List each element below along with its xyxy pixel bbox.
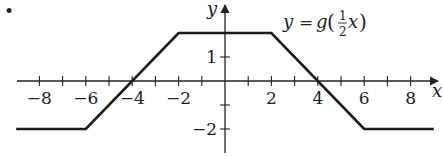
x-tick-label: 6: [359, 88, 370, 108]
y-tick-label: 1: [206, 47, 217, 67]
x-tick-label: −6: [73, 88, 98, 108]
svg-text:g: g: [316, 11, 328, 32]
bullet-marker: •: [4, 1, 14, 21]
x-tick-label: −2: [166, 88, 191, 108]
x-tick-label: 2: [266, 88, 277, 108]
svg-text:(: (: [327, 10, 335, 34]
x-tick-label: 8: [405, 88, 416, 108]
y-tick-label: −2: [192, 119, 217, 139]
svg-text:x: x: [348, 11, 358, 32]
function-label: y = g ( 1 2 x ): [282, 9, 367, 39]
svg-text:1: 1: [339, 9, 347, 23]
svg-text:y: y: [282, 11, 294, 32]
svg-text:=: =: [299, 12, 313, 32]
svg-text:): ): [359, 10, 367, 34]
y-axis-label: y: [206, 0, 218, 19]
x-tick-label: 4: [312, 88, 323, 108]
svg-text:2: 2: [339, 25, 347, 39]
x-tick-label: −8: [27, 88, 52, 108]
chart: • −8−6−4−22468 1−2 x y y = g ( 1 2 x ): [0, 0, 443, 156]
x-axis-label: x: [432, 80, 442, 101]
y-tick-labels: 1−2: [192, 47, 217, 139]
